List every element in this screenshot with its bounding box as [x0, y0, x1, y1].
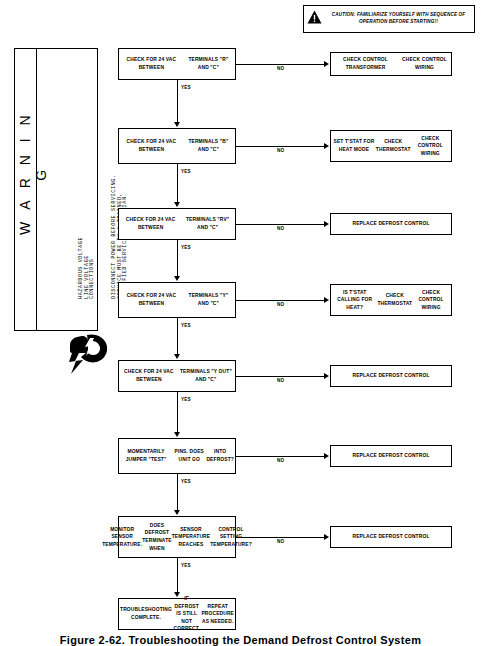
warning-panel: W A R N I N G HAZARDOUS VOLTAGELINE VOLT… [14, 48, 98, 331]
step-3-question: CHECK FOR 24 VAC BETWEENTERMINALS "RV" A… [118, 208, 236, 240]
step-4-no-connector [236, 300, 325, 301]
step-3-no-connector [236, 224, 325, 225]
step-5-yes-connector [177, 392, 178, 433]
step-2-yes-label: YES [181, 169, 191, 174]
caution-line-2: OPERATION BEFORE STARTING!! [359, 19, 438, 24]
step-1-no-result: CHECK CONTROL TRANSFORMERCHECK CONTROL W… [330, 52, 452, 76]
step-5-question: CHECK FOR 24 VAC BETWEENTERMINALS "Y OUT… [118, 360, 236, 392]
caution-text: CAUTION: FAMILIARIZE YOURSELF WITH SEQUE… [326, 12, 471, 26]
step-1-yes-connector [177, 80, 178, 123]
step-5-yes-label: YES [181, 397, 191, 402]
step-2-no-arrowhead [324, 143, 329, 149]
step-4-yes-arrowhead [174, 354, 180, 359]
step-7-no-result: REPLACE DEFROST CONTROL [330, 526, 452, 548]
caution-line-1: CAUTION: FAMILIARIZE YOURSELF WITH SEQUE… [332, 12, 465, 17]
step-1-no-connector [236, 64, 325, 65]
step-3-yes-connector [177, 240, 178, 277]
step-4-no-result: IS T'STAT CALLING FOR HEAT?CHECK THERMOS… [330, 284, 452, 316]
step-4-no-arrowhead [324, 297, 329, 303]
step-5-no-result: REPLACE DEFROST CONTROL [330, 365, 452, 387]
step-7-no-label: NO [277, 539, 284, 544]
step-3-yes-arrowhead [174, 276, 180, 281]
step-4-question: CHECK FOR 24 VAC BETWEENTERMINALS "Y" AN… [118, 282, 236, 318]
step-6-no-result: REPLACE DEFROST CONTROL [330, 445, 452, 467]
step-5-no-arrowhead [324, 373, 329, 379]
step-7-no-arrowhead [324, 534, 329, 540]
step-3-yes-label: YES [181, 245, 191, 250]
step-4-yes-connector [177, 318, 178, 355]
warning-triangle-icon [307, 10, 322, 28]
step-7-yes-label: YES [181, 563, 191, 568]
step-6-no-connector [236, 456, 325, 457]
terminal-node: TROUBLESHOOTING COMPLETE.IF DEFROST IS S… [118, 598, 236, 630]
electric-shock-hand-icon [63, 331, 113, 375]
step-6-no-arrowhead [324, 453, 329, 459]
step-6-yes-connector [177, 474, 178, 511]
step-5-no-connector [236, 376, 325, 377]
step-3-no-result: REPLACE DEFROST CONTROL [330, 213, 452, 235]
step-2-no-connector [236, 146, 325, 147]
step-2-no-result: SET T'STAT FOR HEAT MODECHECK THERMOSTAT… [330, 130, 452, 162]
hazard-voltage-text: HAZARDOUS VOLTAGELINE VOLTAGECONNECTIONS [79, 237, 96, 299]
step-6-no-label: NO [277, 458, 284, 463]
step-2-no-label: NO [277, 148, 284, 153]
step-6-yes-label: YES [181, 479, 191, 484]
step-7-no-connector [236, 537, 325, 538]
step-4-yes-label: YES [181, 323, 191, 328]
step-7-question: MONITOR SENSOR TEMPERATURE.DOES DEFROST … [118, 516, 236, 558]
step-6-question: MOMENTARILY JUMPER "TEST"PINS. DOES UNIT… [118, 438, 236, 474]
step-3-no-arrowhead [324, 221, 329, 227]
caution-banner: CAUTION: FAMILIARIZE YOURSELF WITH SEQUE… [303, 5, 475, 33]
step-5-no-label: NO [277, 378, 284, 383]
step-2-yes-connector [177, 164, 178, 203]
step-1-no-arrowhead [324, 61, 329, 67]
step-1-no-label: NO [277, 66, 284, 71]
warning-panel-inner: HAZARDOUS VOLTAGELINE VOLTAGECONNECTIONS… [36, 49, 98, 330]
step-1-question: CHECK FOR 24 VAC BETWEENTERMINALS "R" AN… [118, 48, 236, 80]
figure-caption: Figure 2-62. Troubleshooting the Demand … [0, 634, 481, 646]
step-5-yes-arrowhead [174, 432, 180, 437]
step-4-no-label: NO [277, 302, 284, 307]
step-7-yes-connector [177, 558, 178, 593]
step-1-yes-arrowhead [174, 122, 180, 127]
step-3-no-label: NO [277, 226, 284, 231]
step-2-yes-arrowhead [174, 202, 180, 207]
step-6-yes-arrowhead [174, 510, 180, 515]
step-1-yes-label: YES [181, 85, 191, 90]
step-2-question: CHECK FOR 24 VAC BETWEENTERMINALS "B" AN… [118, 128, 236, 164]
